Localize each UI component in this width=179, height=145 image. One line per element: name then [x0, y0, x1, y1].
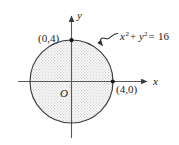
- equation-exponent-x: 2: [126, 30, 130, 38]
- equation-leader-line: [100, 33, 118, 45]
- equation-var-x: x: [119, 30, 125, 42]
- equation-plus-operator: +: [130, 30, 136, 42]
- equation-value: 16: [158, 30, 170, 42]
- y-axis-label: y: [76, 9, 82, 21]
- circle-graph-figure: (0,4) (4,0) O x y x 2 + y 2 = 16: [0, 0, 179, 145]
- equation-exponent-y: 2: [144, 30, 148, 38]
- point-label-right: (4,0): [116, 83, 137, 96]
- figure-container: (0,4) (4,0) O x y x 2 + y 2 = 16: [0, 0, 179, 145]
- point-label-top: (0,4): [38, 32, 59, 45]
- point-marker-top: [69, 38, 73, 42]
- origin-label: O: [60, 87, 68, 99]
- x-axis-label: x: [152, 75, 158, 87]
- circle-equation-label: x 2 + y 2 = 16: [119, 30, 170, 42]
- point-marker-right: [111, 79, 115, 83]
- equation-equals-sign: =: [149, 30, 155, 42]
